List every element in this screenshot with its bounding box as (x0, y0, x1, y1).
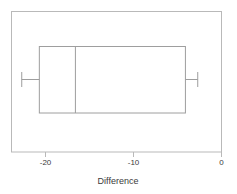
x-tick-label-minus20: -20 (31, 158, 61, 167)
x-axis-title: Difference (68, 176, 168, 186)
plot-frame (12, 12, 222, 153)
boxplot-figure: -20 -10 0 Difference (0, 0, 237, 194)
interquartile-box (39, 47, 185, 114)
x-tick-label-zero: 0 (207, 158, 237, 167)
x-tick-label-minus10: -10 (119, 158, 149, 167)
